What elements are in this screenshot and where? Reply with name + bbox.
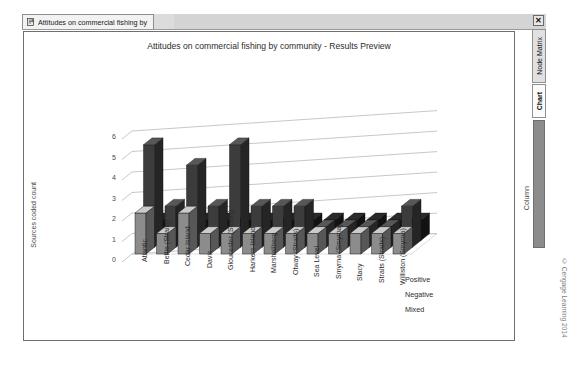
legend-item-positive: Positive: [405, 275, 430, 284]
vertical-tab-chart[interactable]: Chart: [532, 84, 546, 118]
x-axis-category-label: Stacy: [356, 263, 363, 281]
x-axis-category-label: Davis: [206, 250, 213, 268]
y-axis-tick: 1: [104, 236, 116, 243]
vertical-tab-node-matrix[interactable]: Node Matrix: [532, 29, 546, 83]
vertical-tab-chart-label: Chart: [536, 92, 543, 110]
tab-strip: Attitudes on commercial fishing by ✕: [22, 14, 546, 30]
x-axis-category-label: Gloucester (Straits): [227, 209, 234, 269]
legend-item-mixed: Mixed: [405, 305, 424, 314]
document-tab[interactable]: Attitudes on commercial fishing by: [22, 14, 154, 29]
y-axis-tick: 5: [104, 154, 116, 161]
x-axis-category-label: Cedar Island: [184, 226, 191, 266]
close-window-button[interactable]: ✕: [533, 15, 544, 26]
vertical-tab-node-matrix-label: Node Matrix: [536, 37, 543, 75]
right-tab-rail: Node Matrix Chart: [532, 29, 546, 344]
y-axis-title: Sources coded count: [30, 182, 37, 248]
copyright-notice: © Cengage Learning 2014: [561, 258, 568, 338]
x-axis-category-label: Bettie (Straits): [163, 220, 170, 264]
close-icon: ✕: [535, 17, 542, 25]
y-axis-tick: 2: [104, 215, 116, 222]
x-axis-category-label: Smyrna (Smyrna): [335, 224, 342, 279]
x-axis-category-label: Atlantic: [141, 239, 148, 262]
legend-item-negative: Negative: [405, 290, 433, 299]
application-window: Attitudes on commercial fishing by ✕ Att…: [22, 14, 546, 344]
column-axis-label: Column: [523, 186, 530, 210]
chart-panel: Attitudes on commercial fishing by commu…: [23, 31, 515, 341]
bar-chart-3d: [24, 32, 514, 340]
x-axis-category-label: Marshallberg: [270, 233, 277, 273]
y-axis-tick: 0: [104, 256, 116, 263]
tab-strip-empty-area: [174, 14, 546, 29]
x-axis-category-label: Sea Level: [313, 246, 320, 277]
y-axis-tick: 4: [104, 174, 116, 181]
document-icon: [27, 18, 35, 26]
rail-scroll-filler: [533, 120, 545, 248]
y-axis-tick: 6: [104, 133, 116, 140]
x-axis-category-label: Otway (Straits): [292, 229, 299, 275]
chart-plot-area: 0123456 AtlanticBettie (Straits)Cedar Is…: [24, 32, 514, 340]
x-axis-category-label: Harkers Island: [249, 226, 256, 271]
document-tab-label: Attitudes on commercial fishing by: [38, 18, 147, 27]
x-axis-category-label: Straits (Straits): [378, 237, 385, 283]
y-axis-tick: 3: [104, 195, 116, 202]
